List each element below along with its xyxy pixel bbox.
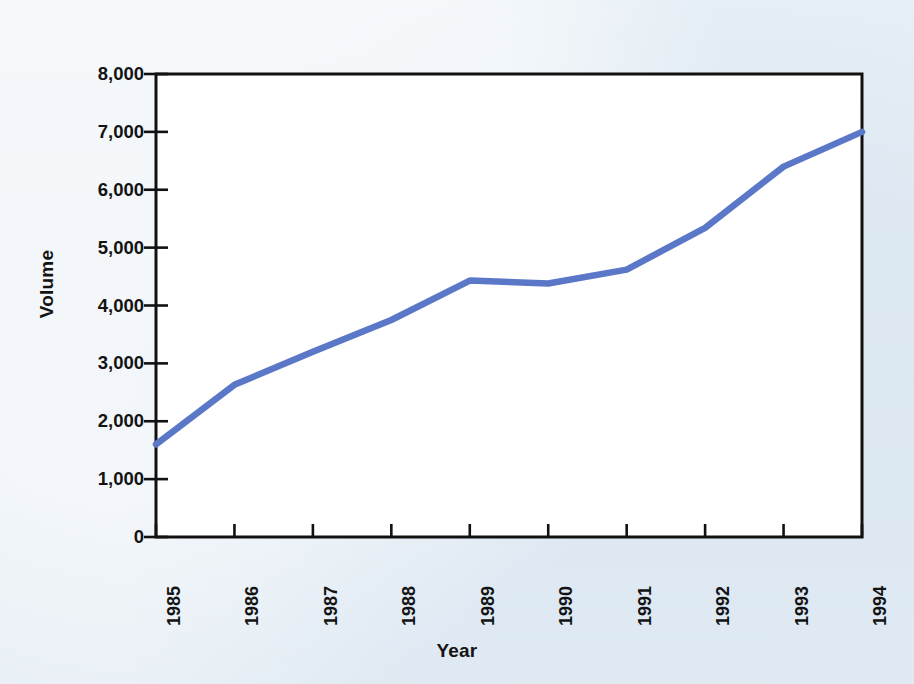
line-chart: 01,0002,0003,0004,0005,0006,0007,0008,00…: [0, 0, 914, 684]
x-axis-tick-label: 1989: [478, 586, 499, 626]
x-axis-tick-label: 1985: [164, 586, 185, 626]
x-axis-tick-label: 1994: [870, 586, 891, 626]
y-axis-tick-label: 5,000: [98, 237, 144, 259]
x-axis-tick-label: 1990: [556, 586, 577, 626]
y-axis-tick-label: 8,000: [98, 63, 144, 85]
x-axis-tick-label: 1991: [635, 586, 656, 626]
y-axis-tick-label: 6,000: [98, 179, 144, 201]
y-axis-tick-label: 3,000: [98, 352, 144, 374]
x-axis-tick-label: 1986: [242, 586, 263, 626]
x-axis-title: Year: [0, 640, 914, 662]
plot-background: [156, 74, 862, 537]
x-axis-tick-label: 1993: [792, 586, 813, 626]
y-axis-tick-label: 4,000: [98, 295, 144, 317]
y-axis-tick-label: 2,000: [98, 410, 144, 432]
y-axis-title: Volume: [36, 250, 58, 318]
y-axis-tick-label: 0: [134, 526, 144, 548]
x-axis-tick-label: 1988: [399, 586, 420, 626]
y-axis-tick-label: 7,000: [98, 121, 144, 143]
y-axis-tick-label: 1,000: [98, 468, 144, 490]
x-axis-tick-label: 1992: [713, 586, 734, 626]
x-axis-tick-label: 1987: [321, 586, 342, 626]
